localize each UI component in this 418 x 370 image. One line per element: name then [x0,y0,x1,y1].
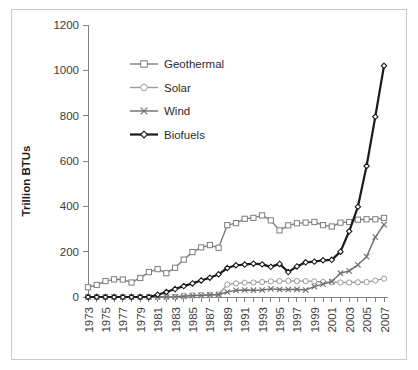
x-tick-label: 1973 [83,307,95,333]
y-axis-title: Trillion BTUs [20,146,32,217]
circle-marker-icon [381,276,386,281]
diamond-marker-icon [164,289,169,294]
diamond-marker-icon [268,264,273,269]
series-biofuels [85,63,386,300]
circle-marker-icon [225,282,230,287]
circle-marker-icon [233,281,238,286]
legend-label-biofuels: Biofuels [164,129,205,141]
square-marker-icon [381,215,386,220]
square-marker-icon [103,279,108,284]
y-tick-label: 1200 [53,19,79,31]
square-marker-icon [164,271,169,276]
square-marker-icon [129,280,134,285]
diamond-marker-icon [320,258,325,263]
x-tick-label: 1977 [117,307,129,333]
legend-label-wind: Wind [164,105,190,117]
y-tick-label: 200 [60,246,79,258]
square-marker-icon [190,250,195,255]
diamond-marker-icon [198,278,203,283]
square-marker-icon [373,217,378,222]
x-tick-label: 1975 [100,307,112,333]
square-marker-icon [138,275,143,280]
y-tick-label: 0 [73,291,79,303]
circle-marker-icon [260,279,265,284]
square-marker-icon [233,221,238,226]
square-marker-icon [364,217,369,222]
square-marker-icon [242,216,247,221]
y-tick-label: 600 [60,155,79,167]
circle-marker-icon [347,280,352,285]
chart-legend: GeothermalSolarWindBiofuels [130,58,224,141]
circle-marker-icon [338,280,343,285]
x-tick-label: 1989 [222,307,234,333]
diamond-marker-icon [242,262,247,267]
x-tick-label: 1993 [257,307,269,333]
square-marker-icon [338,220,343,225]
circle-marker-icon [312,279,317,284]
square-marker-icon [172,265,177,270]
circle-marker-icon [373,278,378,283]
square-marker-icon [199,245,204,250]
diamond-marker-icon [381,63,386,68]
x-tick-label: 1987 [204,307,216,333]
square-marker-icon [146,269,151,274]
circle-marker-icon [286,278,291,283]
circle-marker-icon [242,280,247,285]
series-wind [85,222,386,300]
square-marker-icon [355,217,360,222]
circle-marker-icon [251,280,256,285]
y-tick-label: 1000 [53,64,79,76]
diamond-marker-icon [172,286,177,291]
line-chart: 0200400600800100012001973197519771979198… [0,0,418,370]
square-marker-icon [294,221,299,226]
square-marker-icon [286,223,291,228]
square-marker-icon [207,242,212,247]
chart-figure: 0200400600800100012001973197519771979198… [0,0,418,370]
circle-marker-icon [364,279,369,284]
circle-marker-icon [294,279,299,284]
square-marker-icon [85,285,90,290]
cross-marker-icon [373,234,378,239]
x-tick-label: 1991 [239,307,251,333]
square-marker-icon [94,282,99,287]
diamond-marker-icon [233,263,238,268]
square-marker-icon [141,61,148,68]
diamond-marker-icon [364,163,369,168]
circle-marker-icon [277,279,282,284]
square-marker-icon [329,224,334,229]
x-tick-label: 2005 [361,307,373,333]
diamond-marker-icon [251,261,256,266]
x-tick-label: 1983 [170,307,182,333]
square-marker-icon [216,245,221,250]
cross-marker-icon [355,262,360,267]
circle-marker-icon [303,279,308,284]
square-marker-icon [268,218,273,223]
cross-marker-icon [381,222,386,227]
diamond-marker-icon [259,262,264,267]
square-marker-icon [181,257,186,262]
x-tick-label: 1985 [187,307,199,333]
diamond-marker-icon [141,131,148,138]
square-marker-icon [312,219,317,224]
square-marker-icon [112,277,117,282]
diamond-marker-icon [181,283,186,288]
x-tick-label: 2001 [326,307,338,333]
diamond-marker-icon [373,114,378,119]
circle-marker-icon [141,84,148,91]
cross-marker-icon [364,254,369,259]
x-tick-label: 1995 [274,307,286,333]
legend-label-solar: Solar [164,82,191,94]
y-tick-label: 400 [60,200,79,212]
diamond-marker-icon [312,259,317,264]
square-marker-icon [260,213,265,218]
x-tick-label: 2007 [379,307,391,333]
x-tick-label: 1997 [291,307,303,333]
circle-marker-icon [355,280,360,285]
y-tick-label: 800 [60,110,79,122]
square-marker-icon [120,277,125,282]
diamond-marker-icon [355,204,360,209]
x-tick-label: 1979 [135,307,147,333]
x-tick-label: 2003 [344,307,356,333]
legend-label-geothermal: Geothermal [164,58,224,70]
x-tick-label: 1981 [152,307,164,333]
